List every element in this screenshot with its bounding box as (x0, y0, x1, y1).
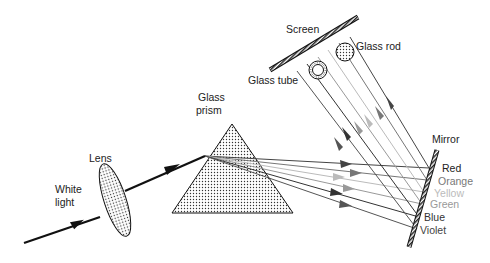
screen-label: Screen (286, 23, 319, 35)
prism-dispersion-diagram: White light Lens Glass prism Screen Glas… (0, 0, 490, 263)
red-label: Red (442, 162, 461, 174)
lens-shape (93, 160, 137, 239)
white-light-label: White (55, 183, 82, 195)
orange-label: Orange (438, 175, 473, 187)
white-light-label-2: light (55, 196, 74, 208)
glass-prism-shape (172, 124, 293, 213)
glass-tube-shape (309, 61, 327, 79)
blue-label: Blue (424, 211, 445, 223)
green-label: Green (430, 198, 459, 210)
lens-label: Lens (89, 152, 112, 164)
glass-prism-label-2: prism (196, 104, 222, 116)
mirror-label: Mirror (432, 133, 460, 145)
glass-tube-label: Glass tube (248, 74, 298, 86)
glass-rod-shape (336, 43, 354, 61)
violet-label: Violet (420, 224, 446, 236)
glass-prism-label: Glass (198, 91, 225, 103)
glass-rod-label: Glass rod (356, 40, 401, 52)
